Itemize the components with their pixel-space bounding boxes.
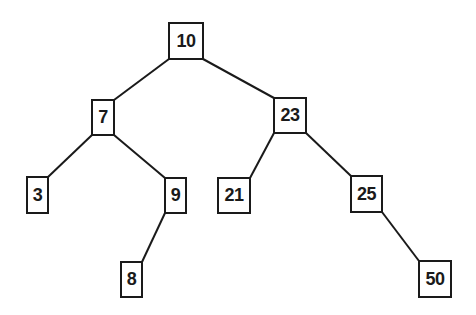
node-label: 8 xyxy=(127,269,137,290)
edge-23-21 xyxy=(250,133,274,178)
edge-7-9 xyxy=(114,135,165,178)
node-21: 21 xyxy=(217,177,251,214)
node-label: 3 xyxy=(33,185,43,206)
node-label: 23 xyxy=(280,105,299,126)
node-10: 10 xyxy=(168,22,204,60)
edge-10-7 xyxy=(114,59,169,100)
node-label: 9 xyxy=(171,185,181,206)
edge-9-8 xyxy=(142,213,165,262)
node-7: 7 xyxy=(91,99,115,136)
edge-10-23 xyxy=(203,59,274,98)
node-label: 21 xyxy=(224,185,243,206)
node-8: 8 xyxy=(120,261,143,298)
tree-diagram: 10 7 23 3 9 21 25 8 50 xyxy=(0,0,476,315)
node-label: 10 xyxy=(176,31,195,52)
edge-23-25 xyxy=(306,133,351,176)
node-label: 7 xyxy=(98,107,108,128)
edge-7-3 xyxy=(48,135,92,177)
edges-layer xyxy=(0,0,476,315)
node-25: 25 xyxy=(350,175,383,213)
node-label: 50 xyxy=(425,269,444,290)
edge-25-50 xyxy=(382,212,419,261)
node-23: 23 xyxy=(273,97,307,134)
node-label: 25 xyxy=(357,184,376,205)
node-3: 3 xyxy=(26,176,49,214)
node-50: 50 xyxy=(418,260,452,298)
node-9: 9 xyxy=(164,177,187,214)
